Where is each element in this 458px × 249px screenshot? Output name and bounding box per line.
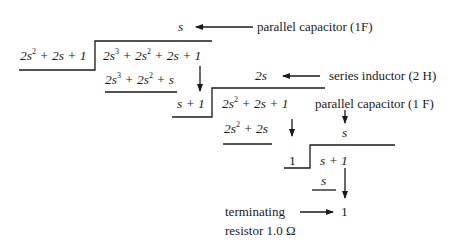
label-terminating: terminating (225, 205, 285, 218)
dividend-step3: s + 1 (320, 154, 348, 168)
quotient-step4: 1 (341, 205, 348, 219)
quotient-step1: s (178, 20, 183, 34)
divisor-step1: 2s2 + 2s + 1 (20, 49, 87, 63)
subtrahend-step2: 2s2 + 2s (224, 122, 268, 136)
label-series-inductor: series inductor (2 H) (329, 69, 436, 82)
subtrahend-step3: s (321, 174, 326, 188)
quotient-step3: s (342, 126, 347, 140)
label-parallel-capacitor-1: parallel capacitor (1F) (257, 20, 373, 33)
label-resistor: resistor 1.0 Ω (225, 224, 296, 237)
label-parallel-capacitor-2: parallel capacitor (1 F) (315, 97, 434, 110)
dividend-step2: 2s2 + 2s + 1 (222, 97, 289, 111)
dividend-step1: 2s3 + 2s2 + 2s + 1 (103, 49, 201, 63)
subtrahend-step1: 2s3 + 2s2 + s (105, 73, 174, 87)
divisor-step3: 1 (289, 154, 296, 168)
divisor-step2: s + 1 (177, 97, 205, 111)
quotient-step2: 2s (255, 69, 267, 83)
